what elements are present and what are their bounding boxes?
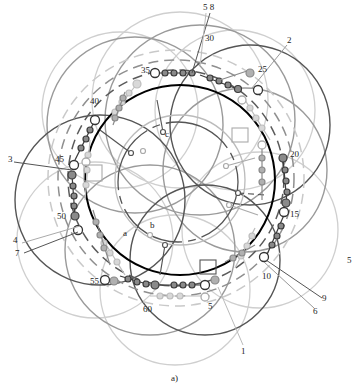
slot-label-20: 20	[290, 150, 299, 159]
slot-label-55: 55	[90, 277, 99, 286]
lead-label-1: 1	[241, 347, 246, 356]
lead-label-7: 7	[15, 249, 20, 258]
slot-label-35: 35	[141, 66, 150, 75]
inner-ring-light	[115, 115, 245, 245]
lead-label-5-8: 5 8	[203, 3, 214, 12]
lead-label-2: 2	[287, 36, 292, 45]
slot-label-15: 15	[290, 210, 299, 219]
lead-label-4: 4	[13, 236, 18, 245]
inner-label-b: b	[150, 221, 155, 230]
lead-label-3: 3	[8, 155, 13, 164]
lead-label-5-edge: 5	[347, 256, 352, 265]
inner-label-a: a	[123, 229, 127, 238]
winding-diagram	[0, 0, 353, 391]
slot-label-5: 5	[208, 302, 213, 311]
slot-label-10: 10	[262, 272, 271, 281]
terminal-circles	[70, 69, 289, 302]
inner-label-c: c	[165, 130, 169, 139]
slot-label-30: 30	[205, 34, 214, 43]
slot-label-60: 60	[143, 305, 152, 314]
inner-ring-dark	[118, 122, 238, 242]
lead-label-9: 9	[322, 294, 327, 303]
figure-caption: a)	[171, 373, 178, 383]
slot-label-50: 50	[57, 212, 66, 221]
lead-label-6: 6	[313, 307, 318, 316]
slot-label-25: 25	[258, 65, 267, 74]
slot-label-45: 45	[55, 155, 64, 164]
dark-coil-arcs	[15, 45, 330, 335]
light-coil-arcs	[17, 12, 338, 365]
slot-label-40: 40	[90, 97, 99, 106]
